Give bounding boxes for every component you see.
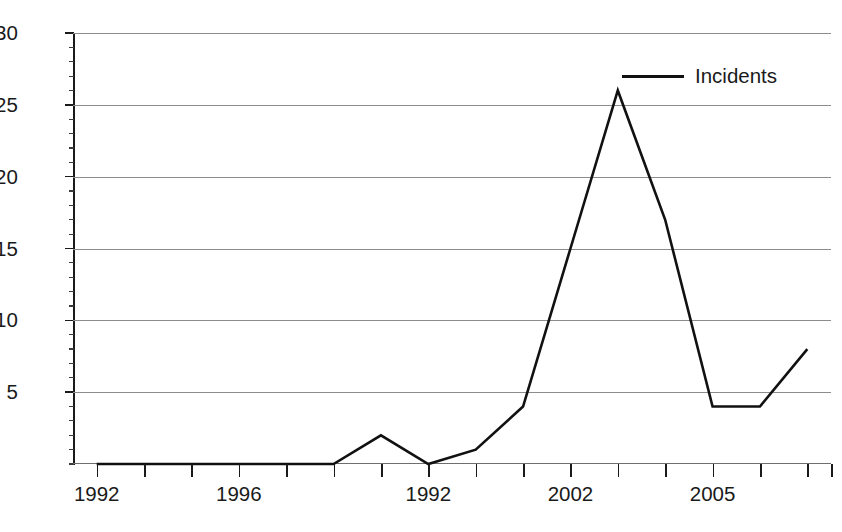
x-tick-11 — [570, 464, 572, 477]
legend-line-swatch — [622, 75, 684, 78]
legend: Incidents — [622, 66, 777, 87]
x-tick-16 — [807, 464, 809, 477]
plot-area — [73, 33, 831, 464]
y-axis-label-5: 5 — [6, 382, 18, 403]
x-tick-3 — [191, 464, 193, 477]
x-tick-4 — [239, 464, 241, 477]
legend-label-incidents: Incidents — [695, 66, 777, 87]
x-axis-label-14: 2005 — [690, 484, 736, 505]
x-tick-12 — [618, 464, 620, 477]
y-axis-label-30: 30 — [0, 23, 18, 44]
x-tick-6 — [334, 464, 336, 477]
x-tick-5 — [286, 464, 288, 477]
x-tick-14 — [713, 464, 715, 477]
x-tick-1 — [97, 464, 99, 477]
x-tick-15 — [760, 464, 762, 477]
x-axis-end-tick — [831, 464, 833, 477]
y-axis-label-25: 25 — [0, 95, 18, 116]
x-axis-label-1: 1992 — [74, 484, 120, 505]
x-axis-labels: 19921996199220022005 — [73, 484, 833, 514]
x-axis-label-4: 1996 — [216, 484, 262, 505]
x-tick-7 — [381, 464, 383, 477]
x-tick-8 — [428, 464, 430, 477]
line-chart: 51015202530 19921996199220022005 Inciden… — [0, 0, 842, 532]
y-axis-ticks: 51015202530 — [0, 33, 74, 465]
y-axis-label-10: 10 — [0, 310, 18, 331]
x-axis-ticks — [73, 464, 833, 480]
x-tick-2 — [144, 464, 146, 477]
x-tick-13 — [665, 464, 667, 477]
x-axis-label-8: 1992 — [406, 484, 452, 505]
series-line-incidents — [73, 33, 831, 464]
y-axis-label-20: 20 — [0, 167, 18, 188]
y-axis-label-15: 15 — [0, 239, 18, 260]
x-tick-9 — [476, 464, 478, 477]
x-axis-label-11: 2002 — [548, 484, 594, 505]
x-tick-10 — [523, 464, 525, 477]
